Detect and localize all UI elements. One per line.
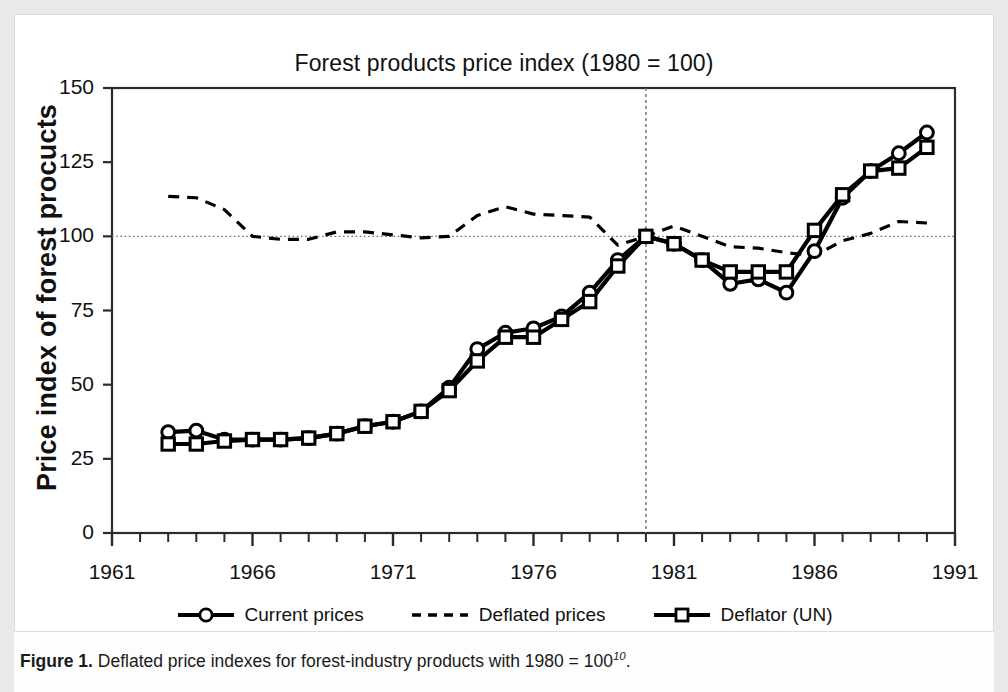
y-tick-label: 125 [34,149,94,173]
figure-caption-label: Figure 1. [20,651,93,671]
legend-item-current-prices: Current prices [176,604,364,626]
y-tick-label: 50 [34,372,94,396]
series-markers [162,126,934,450]
x-tick-label: 1971 [348,560,438,584]
figure-caption-text: Deflated price indexes for forest-indust… [98,651,613,671]
legend-label-current-prices: Current prices [245,604,364,626]
legend-label-deflator-un: Deflator (UN) [721,604,833,626]
legend-item-deflator-un: Deflator (UN) [652,604,833,626]
chart-area: Forest products price index (1980 = 100)… [14,14,994,632]
x-axis-minor-ticks [112,533,955,546]
plot-svg [14,14,994,632]
x-tick-label: 1976 [489,560,579,584]
y-tick-label: 75 [34,298,94,322]
x-tick-label: 1961 [67,560,157,584]
y-tick-label: 100 [34,223,94,247]
legend-label-deflated-prices: Deflated prices [479,604,606,626]
plot-frame [112,88,955,533]
figure-caption: Figure 1. Deflated price indexes for for… [20,650,988,672]
chart-legend: Current prices Deflated prices Deflator … [14,604,994,626]
y-tick-label: 25 [34,446,94,470]
legend-swatch-dashed-icon [410,605,470,625]
y-axis-ticks [103,88,112,533]
figure-caption-superscript: 10 [613,650,626,662]
legend-swatch-square-icon [652,605,712,625]
figure-caption-end: . [626,651,631,671]
x-tick-label: 1991 [910,560,1000,584]
x-tick-label: 1981 [629,560,719,584]
legend-swatch-circle-icon [176,605,236,625]
x-tick-label: 1966 [208,560,298,584]
y-tick-label: 0 [34,520,94,544]
figure-container: Forest products price index (1980 = 100)… [0,0,1008,692]
y-tick-label: 150 [34,75,94,99]
series-lines [168,133,927,445]
x-tick-label: 1986 [770,560,860,584]
legend-item-deflated-prices: Deflated prices [410,604,606,626]
